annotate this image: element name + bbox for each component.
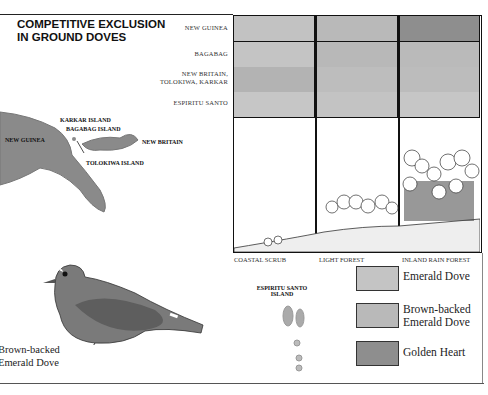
dove-caption: Brown-backed Emerald Dove (0, 343, 60, 369)
bottom-rule (0, 383, 484, 384)
legend-swatch-emerald-dove (356, 266, 399, 291)
map-label-new-guinea: NEW GUINEA (5, 137, 45, 143)
map-label-espiritu-santo: ESPIRITU SANTO ISLAND (252, 285, 312, 297)
habitat-label-inland-rain-forest: INLAND RAIN FOREST (402, 256, 470, 263)
habitat-label-coastal-scrub: COASTAL SCRUB (234, 256, 286, 263)
dove-caption-line-1: Brown-backed (0, 343, 60, 356)
right-rule (482, 253, 483, 383)
habitat-label-light-forest: LIGHT FOREST (319, 256, 364, 263)
map-label-new-britain: NEW BRITAIN (142, 139, 183, 145)
new-guinea-map (0, 0, 230, 240)
legend-label-brown-backed-2: Emerald Dove (403, 316, 470, 329)
legend-label-brown-backed-1: Brown-backed (403, 303, 471, 316)
dove-caption-line-2: Emerald Dove (0, 356, 60, 369)
legend-label-emerald-dove: Emerald Dove (403, 270, 470, 283)
habitat-grid (233, 15, 482, 253)
legend-label-golden-heart: Golden Heart (403, 346, 465, 359)
landscape-illustration (234, 16, 480, 252)
espiritu-santo-island-map (278, 298, 318, 378)
legend-swatch-brown-backed (356, 303, 399, 328)
map-label-tolokiwa: TOLOKIWA ISLAND (86, 160, 144, 166)
map-label-bagabag: BAGABAG ISLAND (66, 126, 121, 132)
legend-swatch-golden-heart (356, 341, 399, 366)
espiritu-line-2: ISLAND (252, 291, 312, 297)
map-label-karkar: KARKAR ISLAND (60, 117, 111, 123)
dove-illustration (35, 255, 205, 345)
